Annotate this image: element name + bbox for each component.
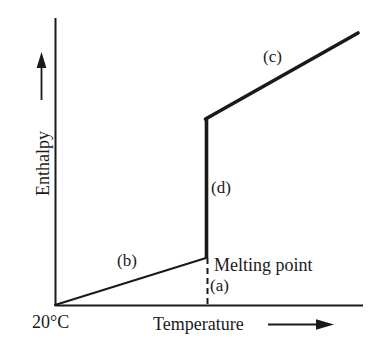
x-axis-title-text: Temperature: [153, 315, 244, 333]
segment-b-label: (b): [117, 252, 137, 269]
segment-c-label: (c): [263, 48, 282, 65]
y-axis-title-text: Enthalpy: [33, 131, 54, 196]
chart-canvas: [0, 0, 385, 355]
segment-d-label: (d): [211, 179, 231, 196]
up-arrow-icon: [37, 52, 47, 100]
curve-segment-c: [206, 33, 359, 119]
x-axis-origin-label: 20°C: [32, 313, 69, 331]
enthalpy-temperature-chart: Enthalpy Temperature 20°C Melting point …: [0, 0, 385, 355]
segment-a-label: (a): [210, 277, 229, 294]
right-arrow-icon: [268, 319, 334, 329]
y-axis-title: Enthalpy: [13, 100, 37, 200]
melting-point-label: Melting point: [214, 256, 313, 274]
